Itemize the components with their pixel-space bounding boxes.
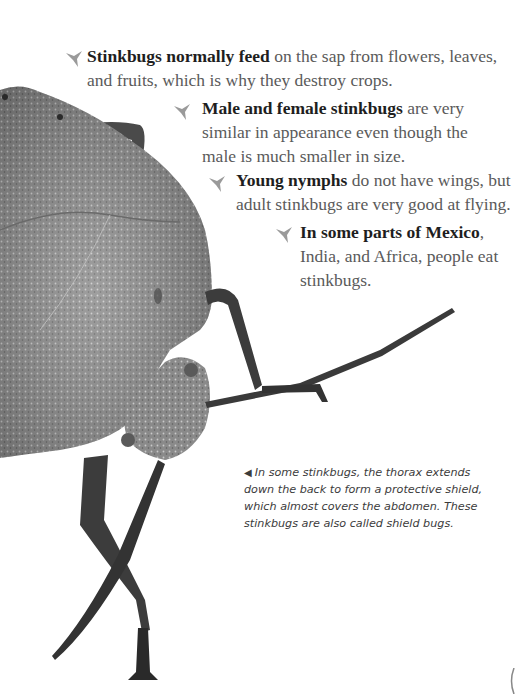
stinkbug-bullet-icon bbox=[66, 51, 83, 68]
fact-eaten-bold: In some parts of Mexico bbox=[300, 222, 480, 242]
page-edge-mark bbox=[509, 668, 515, 694]
fact-feeding: Stinkbugs normally feed on the sap from … bbox=[87, 44, 507, 92]
foot bbox=[128, 628, 158, 680]
arrow-left-icon: ◀ bbox=[244, 467, 252, 478]
fact-male-female-bold: Male and female stinkbugs bbox=[202, 98, 403, 118]
middle-leg bbox=[205, 288, 262, 390]
fact-nymphs: Young nymphs do not have wings, but adul… bbox=[236, 168, 514, 216]
stinkbug-bullet-icon bbox=[174, 104, 191, 121]
fact-eaten: In some parts of Mexico, India, and Afri… bbox=[300, 220, 505, 292]
stinkbug-bullet-icon bbox=[209, 176, 226, 193]
photo-caption: ◀In some stinkbugs, the thorax extends d… bbox=[244, 464, 504, 532]
caption-text: In some stinkbugs, the thorax extends do… bbox=[244, 466, 482, 530]
fact-nymphs-bold: Young nymphs bbox=[236, 170, 347, 190]
stinkbug-bullet-icon bbox=[276, 227, 293, 244]
fact-male-female: Male and female stinkbugs are very simil… bbox=[202, 96, 502, 168]
fact-feeding-bold: Stinkbugs normally feed bbox=[87, 46, 270, 66]
